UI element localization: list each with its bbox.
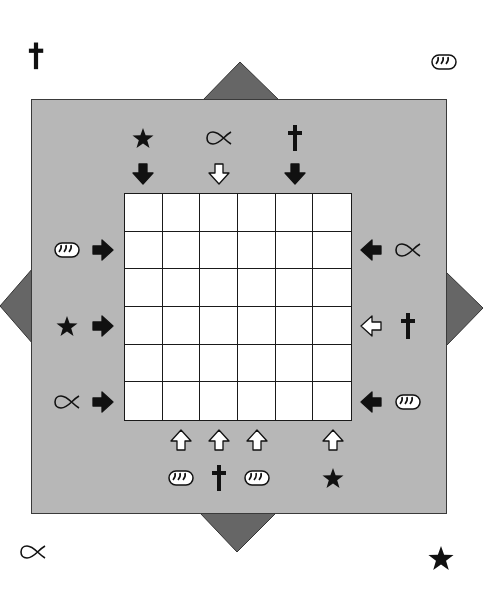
grid-cell-r4-c2[interactable] — [163, 307, 201, 345]
bread-icon — [168, 469, 194, 487]
grid-cell-r5-c2[interactable] — [163, 345, 201, 383]
arrow-left-black-icon — [360, 239, 382, 261]
grid-cell-r2-c1[interactable] — [125, 232, 163, 270]
grid-cell-r3-c1[interactable] — [125, 269, 163, 307]
cross-icon — [212, 465, 226, 491]
grid-cell-r3-c3[interactable] — [200, 269, 238, 307]
bread-icon — [244, 469, 270, 487]
fish-icon — [20, 544, 46, 560]
star-icon — [56, 315, 78, 337]
corner-triangle-right — [445, 270, 484, 348]
grid-cell-r3-c5[interactable] — [276, 269, 314, 307]
grid-cell-r1-c1[interactable] — [125, 194, 163, 232]
grid-cell-r6-c3[interactable] — [200, 382, 238, 420]
grid-cell-r2-c4[interactable] — [238, 232, 276, 270]
fish-icon — [206, 130, 232, 146]
grid-cell-r6-c4[interactable] — [238, 382, 276, 420]
corner-triangle-left — [0, 266, 34, 346]
grid-cell-r2-c6[interactable] — [313, 232, 351, 270]
grid-cell-r5-c1[interactable] — [125, 345, 163, 383]
arrow-right-black-icon — [92, 391, 114, 413]
corner-triangle-top — [200, 60, 282, 102]
star-icon — [132, 127, 154, 149]
arrow-up-white-icon — [322, 429, 344, 451]
star-icon — [322, 467, 344, 489]
grid-cell-r4-c4[interactable] — [238, 307, 276, 345]
cross-icon — [401, 313, 415, 339]
grid-cell-r5-c4[interactable] — [238, 345, 276, 383]
grid-cell-r4-c6[interactable] — [313, 307, 351, 345]
grid-cell-r1-c6[interactable] — [313, 194, 351, 232]
fish-icon — [54, 394, 80, 410]
arrow-down-white-icon — [208, 163, 230, 185]
arrow-right-black-icon — [92, 239, 114, 261]
grid-cell-r6-c5[interactable] — [276, 382, 314, 420]
arrow-up-white-icon — [246, 429, 268, 451]
grid-cell-r5-c6[interactable] — [313, 345, 351, 383]
grid-cell-r6-c1[interactable] — [125, 382, 163, 420]
grid-cell-r6-c2[interactable] — [163, 382, 201, 420]
bread-icon — [395, 393, 421, 411]
puzzle-grid — [124, 193, 352, 421]
grid-cell-r1-c2[interactable] — [163, 194, 201, 232]
grid-cell-r1-c3[interactable] — [200, 194, 238, 232]
grid-cell-r4-c1[interactable] — [125, 307, 163, 345]
arrow-down-black-icon — [284, 163, 306, 185]
grid-cell-r2-c2[interactable] — [163, 232, 201, 270]
grid-cell-r6-c6[interactable] — [313, 382, 351, 420]
arrow-right-black-icon — [92, 315, 114, 337]
grid-cell-r5-c3[interactable] — [200, 345, 238, 383]
star-icon — [428, 545, 454, 571]
bread-icon — [431, 53, 457, 71]
arrow-left-black-icon — [360, 391, 382, 413]
arrow-left-white-icon — [360, 315, 382, 337]
grid-cell-r1-c5[interactable] — [276, 194, 314, 232]
grid-cell-r3-c6[interactable] — [313, 269, 351, 307]
bread-icon — [54, 241, 80, 259]
grid-cell-r3-c4[interactable] — [238, 269, 276, 307]
grid-cell-r1-c4[interactable] — [238, 194, 276, 232]
corner-triangle-bottom — [198, 512, 278, 554]
cross-icon — [29, 42, 44, 69]
grid-cell-r4-c3[interactable] — [200, 307, 238, 345]
grid-cell-r3-c2[interactable] — [163, 269, 201, 307]
grid-cell-r2-c3[interactable] — [200, 232, 238, 270]
arrow-down-black-icon — [132, 163, 154, 185]
grid-cell-r5-c5[interactable] — [276, 345, 314, 383]
grid-cell-r4-c5[interactable] — [276, 307, 314, 345]
arrow-up-white-icon — [170, 429, 192, 451]
arrow-up-white-icon — [208, 429, 230, 451]
fish-icon — [395, 242, 421, 258]
cross-icon — [288, 125, 302, 151]
grid-cell-r2-c5[interactable] — [276, 232, 314, 270]
